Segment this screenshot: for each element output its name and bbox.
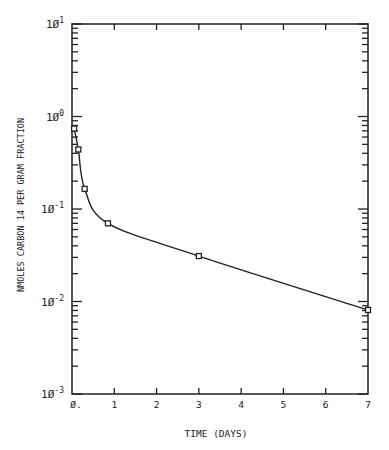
chart: 1Ø11Ø01Ø-11Ø-21Ø-3 Ø.1234567 TIME (DAYS)…	[0, 0, 389, 450]
x-tick-label: Ø.	[70, 399, 81, 410]
data-point-marker	[196, 254, 201, 259]
data-curve	[74, 129, 368, 310]
data-point-marker	[105, 221, 110, 226]
x-tick-label: 4	[238, 399, 244, 410]
x-tick-label: 5	[281, 399, 287, 410]
y-tick-label: 1Ø0	[46, 109, 64, 124]
data-point-marker	[366, 307, 371, 312]
x-tick-label: 3	[196, 399, 202, 410]
y-tick-label: 1Ø-3	[41, 386, 64, 401]
x-tick-label: 1	[111, 399, 117, 410]
data-point-marker	[82, 186, 87, 191]
data-point-marker	[72, 126, 77, 131]
plot-frame	[72, 24, 368, 394]
x-tick-label: 2	[154, 399, 160, 410]
axis-ticks	[72, 24, 368, 394]
data-markers	[72, 126, 371, 312]
data-point-marker	[76, 147, 81, 152]
x-axis-label: TIME (DAYS)	[185, 428, 248, 439]
y-tick-label: 1Ø1	[46, 16, 64, 31]
y-axis-label: NMOLES CARBON 14 PER GRAM FRACTION	[16, 118, 26, 292]
x-tick-label: 7	[365, 399, 371, 410]
x-tick-labels: Ø.1234567	[70, 399, 371, 410]
y-tick-label: 1Ø-1	[41, 201, 64, 216]
x-tick-label: 6	[323, 399, 329, 410]
y-tick-labels: 1Ø11Ø01Ø-11Ø-21Ø-3	[41, 16, 64, 401]
y-tick-label: 1Ø-2	[41, 294, 64, 309]
